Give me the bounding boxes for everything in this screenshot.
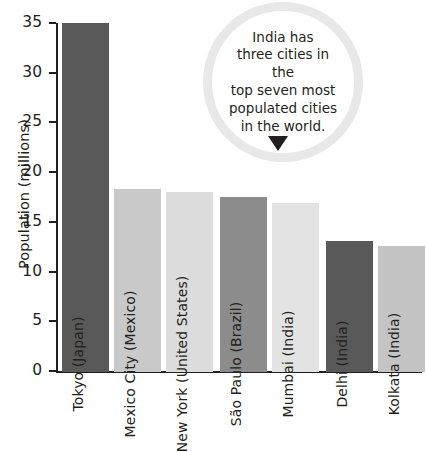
y-tick-0 xyxy=(49,370,56,372)
bar-label: Kolkata (India) xyxy=(386,313,402,416)
y-tick-20 xyxy=(49,171,56,173)
bar-delhi-india: Delhi (India) xyxy=(326,241,373,372)
bar-new-york-united-states: New York (United States) xyxy=(166,192,213,372)
y-tick-label-15: 15 xyxy=(0,214,42,230)
y-tick-5 xyxy=(49,320,56,322)
bar-label: Mumbai (India) xyxy=(280,310,296,417)
y-tick-label-10: 10 xyxy=(0,264,42,280)
y-tick-25 xyxy=(49,121,56,123)
bar-s-o-paulo-brazil: São Paulo (Brazil) xyxy=(220,197,267,372)
y-tick-label-20: 20 xyxy=(0,164,42,180)
bar-label: Delhi (India) xyxy=(334,320,350,407)
bar-label: Mexico City (Mexico) xyxy=(122,290,138,437)
y-tick-35 xyxy=(49,22,56,24)
bar-label: Tokyo (Japan) xyxy=(70,317,86,412)
bar-tokyo-japan: Tokyo (Japan) xyxy=(62,23,109,372)
y-tick-label-0: 0 xyxy=(0,363,42,379)
bar-mexico-city-mexico: Mexico City (Mexico) xyxy=(114,189,161,372)
y-tick-label-30: 30 xyxy=(0,65,42,81)
india-callout-text: India hasthree cities in thetop seven mo… xyxy=(212,29,354,136)
bar-mumbai-india: Mumbai (India) xyxy=(272,203,319,373)
y-tick-label-35: 35 xyxy=(0,15,42,31)
y-tick-15 xyxy=(49,221,56,223)
bar-label: New York (United States) xyxy=(174,276,190,452)
y-tick-10 xyxy=(49,271,56,273)
callout-down-arrow-icon xyxy=(268,136,288,151)
y-tick-label-5: 5 xyxy=(0,313,42,329)
bar-label: São Paulo (Brazil) xyxy=(228,302,244,426)
bar-kolkata-india: Kolkata (India) xyxy=(378,246,425,372)
y-tick-label-25: 25 xyxy=(0,114,42,130)
y-tick-30 xyxy=(49,72,56,74)
